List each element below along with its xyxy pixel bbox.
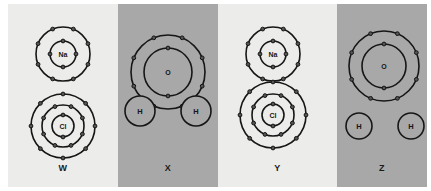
hydrogen-atom-right-symbol: H (193, 107, 198, 116)
hydrogen-atom-left-symbol: H (356, 122, 361, 131)
sodium-atom-symbol: Na (59, 51, 68, 58)
oxygen-atom-symbol: O (381, 63, 387, 70)
hydrogen-atom-left: H (125, 96, 155, 126)
panel-y-label: Y (218, 163, 337, 173)
panel-w-label: W (8, 163, 118, 173)
panel-y: NaCl Y (218, 4, 337, 187)
panel-z-label: Z (337, 163, 427, 173)
hydrogen-atom-right: H (398, 113, 424, 139)
hydrogen-atom-right: H (181, 96, 211, 126)
panel-x: OHH X (118, 4, 218, 187)
chlorine-atom: Cl (29, 92, 97, 160)
panel-x-label: X (118, 163, 218, 173)
panel-z-diagram: OHH (337, 4, 427, 187)
hydrogen-atom-left-symbol: H (137, 107, 142, 116)
panel-w-diagram: NaCl (8, 4, 118, 187)
panel-y-diagram: NaCl (218, 4, 337, 187)
panel-x-diagram: OHH (118, 4, 218, 187)
sodium-atom: Na (36, 27, 90, 81)
chlorine-atom: Cl (238, 80, 308, 150)
sodium-atom: Na (246, 27, 300, 81)
oxygen-atom: O (349, 31, 419, 101)
oxygen-atom-symbol: O (165, 69, 171, 76)
hydrogen-atom-left: H (346, 113, 372, 139)
panel-z: OHH Z (337, 4, 427, 187)
chlorine-atom-symbol: Cl (60, 123, 67, 130)
panel-w: NaCl W (8, 4, 118, 187)
sodium-atom-symbol: Na (269, 51, 278, 58)
chlorine-atom-symbol: Cl (270, 112, 277, 119)
hydrogen-atom-right-symbol: H (408, 122, 413, 131)
figure-root: NaCl W OHH X NaCl Y OHH Z (0, 0, 431, 191)
